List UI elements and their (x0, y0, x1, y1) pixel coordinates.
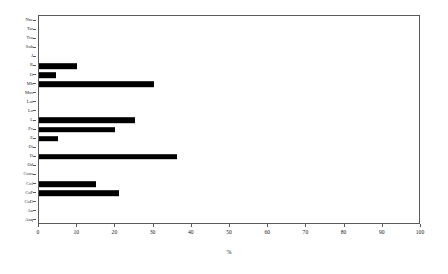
y-axis-tick (33, 192, 36, 193)
y-axis-tick (33, 156, 36, 157)
bar (39, 63, 77, 69)
y-axis-labels: NneTarTroSubJROMbMusLatLoLPvEDiDOdConsCo… (0, 15, 36, 224)
y-axis-tick (33, 219, 36, 220)
y-axis-tick (33, 210, 36, 211)
y-axis-tick (33, 20, 36, 21)
bar-row (39, 52, 419, 61)
bar-row (39, 134, 419, 143)
x-axis-tick (38, 224, 39, 227)
x-axis: 0102030405060708090100 (38, 224, 420, 248)
x-axis-tick-label: 20 (112, 229, 118, 235)
y-axis-tick-label: CoD (24, 197, 33, 206)
x-axis-tick-label: 90 (379, 229, 385, 235)
x-axis-tick-label: 100 (416, 229, 424, 235)
bar (39, 118, 135, 124)
bar-row (39, 152, 419, 161)
y-axis-tick (33, 74, 36, 75)
x-axis-tick (229, 224, 230, 227)
x-axis-tick (305, 224, 306, 227)
bar-chart: NneTarTroSubJROMbMusLatLoLPvEDiDOdConsCo… (0, 0, 448, 274)
bar (39, 190, 119, 196)
bar (39, 72, 56, 78)
y-axis-tick (33, 201, 36, 202)
y-axis-tick (33, 183, 36, 184)
y-axis-tick (33, 56, 36, 57)
y-axis-tick (33, 147, 36, 148)
x-axis-tick (420, 224, 421, 227)
bar-row (39, 170, 419, 179)
y-axis-tick (33, 129, 36, 130)
bars-layer (39, 16, 419, 223)
y-axis-tick (33, 101, 36, 102)
x-axis-tick-label: 50 (226, 229, 232, 235)
bar-row (39, 43, 419, 52)
x-axis-tick-label: 30 (150, 229, 156, 235)
bar-row (39, 80, 419, 89)
x-axis-tick (76, 224, 77, 227)
bar-row (39, 207, 419, 216)
y-axis-tick-label: Sub (26, 42, 33, 51)
bar-row (39, 198, 419, 207)
bar-row (39, 61, 419, 70)
y-axis-tick (33, 29, 36, 30)
x-axis-tick-label: 0 (37, 229, 40, 235)
y-axis-tick (33, 174, 36, 175)
bar-row (39, 89, 419, 98)
bar-row (39, 116, 419, 125)
x-axis-tick (191, 224, 192, 227)
y-axis-tick (33, 47, 36, 48)
x-axis-tick (382, 224, 383, 227)
x-axis-title: % (38, 249, 420, 255)
x-axis-tick-label: 60 (264, 229, 270, 235)
y-axis-tick (33, 65, 36, 66)
y-axis-tick (33, 138, 36, 139)
x-axis-tick (344, 224, 345, 227)
x-axis-tick-label: 10 (73, 229, 79, 235)
x-axis-tick-label: 40 (188, 229, 194, 235)
bar (39, 154, 177, 160)
y-axis-tick-label: CoP (25, 188, 33, 197)
y-axis-tick-label: Nne (25, 15, 33, 24)
x-axis-tick-label: 80 (341, 229, 347, 235)
y-axis-tick (33, 110, 36, 111)
bar-row (39, 34, 419, 43)
x-axis-tick-label: 70 (303, 229, 309, 235)
bar-row (39, 16, 419, 25)
bar-row (39, 180, 419, 189)
x-axis-tick (114, 224, 115, 227)
bar (39, 181, 96, 187)
x-axis-tick (153, 224, 154, 227)
y-axis-tick-label: Col (26, 179, 33, 188)
y-axis-tick-label: Cons (24, 169, 33, 178)
bar (39, 127, 115, 133)
bar-row (39, 189, 419, 198)
bar-row (39, 25, 419, 34)
y-axis-tick (33, 120, 36, 121)
y-axis-tick (33, 38, 36, 39)
y-axis-tick (33, 165, 36, 166)
bar (39, 81, 154, 87)
x-axis-tick (267, 224, 268, 227)
bar-row (39, 98, 419, 107)
y-axis-tick (33, 83, 36, 84)
bar-row (39, 143, 419, 152)
bar (39, 136, 58, 142)
bar-row (39, 125, 419, 134)
y-axis-tick (33, 92, 36, 93)
bar-row (39, 71, 419, 80)
plot-area (38, 15, 420, 224)
bar-row (39, 107, 419, 116)
y-axis-tick-label: Mus (25, 88, 33, 97)
bar-row (39, 161, 419, 170)
y-axis-tick-label: Anq (25, 215, 33, 224)
